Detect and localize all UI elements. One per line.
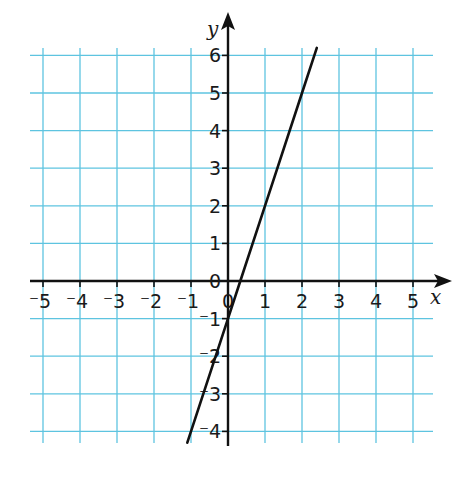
grid-lines (30, 48, 433, 443)
x-tick-label: ⁻5 (29, 290, 51, 312)
series-line (187, 48, 316, 443)
x-tick-label: 2 (296, 290, 308, 312)
x-tick-label: 1 (259, 290, 271, 312)
y-tick-label: 3 (209, 157, 221, 179)
y-tick-label: 4 (209, 120, 221, 142)
line-graph: ⁻5⁻4⁻3⁻2⁻1012345⁻4⁻3⁻2⁻10123456 x y (0, 0, 467, 486)
x-tick-label: 5 (407, 290, 419, 312)
x-tick-label: ⁻4 (66, 290, 88, 312)
axes (30, 12, 452, 446)
y-tick-label: 6 (209, 44, 221, 66)
x-tick-label: ⁻3 (103, 290, 125, 312)
x-axis-label: x (430, 285, 441, 309)
y-tick-label: ⁻4 (199, 420, 221, 442)
y-tick-label: 1 (209, 232, 221, 254)
plot-line (187, 48, 316, 443)
y-tick-label: 0 (209, 270, 221, 292)
y-tick-label: 5 (209, 82, 221, 104)
x-tick-label: ⁻2 (140, 290, 162, 312)
y-tick-label: ⁻1 (199, 308, 221, 330)
y-tick-label: 2 (209, 195, 221, 217)
x-tick-label: ⁻1 (177, 290, 199, 312)
x-tick-label: 4 (370, 290, 382, 312)
x-tick-label: 3 (333, 290, 345, 312)
y-axis-label: y (206, 17, 219, 41)
